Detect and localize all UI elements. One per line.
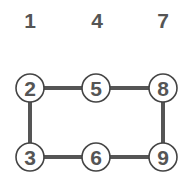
node-5: 5 [82, 74, 110, 102]
node-6: 6 [82, 143, 110, 171]
node-label-5: 5 [90, 77, 102, 100]
node-8: 8 [149, 74, 177, 102]
node-label-8: 8 [157, 77, 169, 100]
node-9: 9 [149, 143, 177, 171]
node-3: 3 [16, 143, 44, 171]
top-label-4: 4 [91, 9, 103, 32]
graph-diagram: 1 4 7 2 5 8 3 6 9 [0, 0, 190, 192]
node-label-6: 6 [90, 146, 102, 169]
node-label-9: 9 [157, 146, 169, 169]
node-2: 2 [16, 74, 44, 102]
node-label-3: 3 [24, 146, 36, 169]
top-label-1: 1 [24, 9, 36, 32]
top-label-7: 7 [157, 9, 169, 32]
node-label-2: 2 [24, 77, 36, 100]
